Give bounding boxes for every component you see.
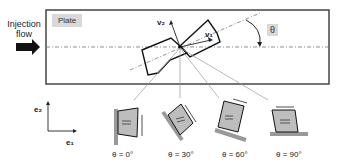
injection-label-line2: flow [2,29,46,39]
flow-arrow-icon [16,39,40,55]
theta-label: θ [267,24,278,36]
orientation-0 [114,108,142,145]
injection-flow-label: Injection flow [2,19,46,39]
orientation-90 [270,107,308,136]
injection-label-line1: Injection [2,19,46,29]
e1-axis-label: e₁ [66,138,74,147]
orientation-30 [163,104,196,140]
v2-label: v₂ [157,18,165,27]
caption-theta-60: θ = 60° [222,150,248,159]
orientation-60 [215,99,247,140]
caption-theta-30: θ = 30° [168,150,194,159]
caption-theta-90: θ = 90° [276,150,302,159]
plate-label: Plate [52,14,82,27]
e2-axis-label: e₂ [34,105,42,114]
v1-label: v₁ [205,30,213,39]
diagram-canvas [0,0,338,164]
inclined-line [130,12,262,70]
caption-theta-0: θ = 0° [112,150,133,159]
